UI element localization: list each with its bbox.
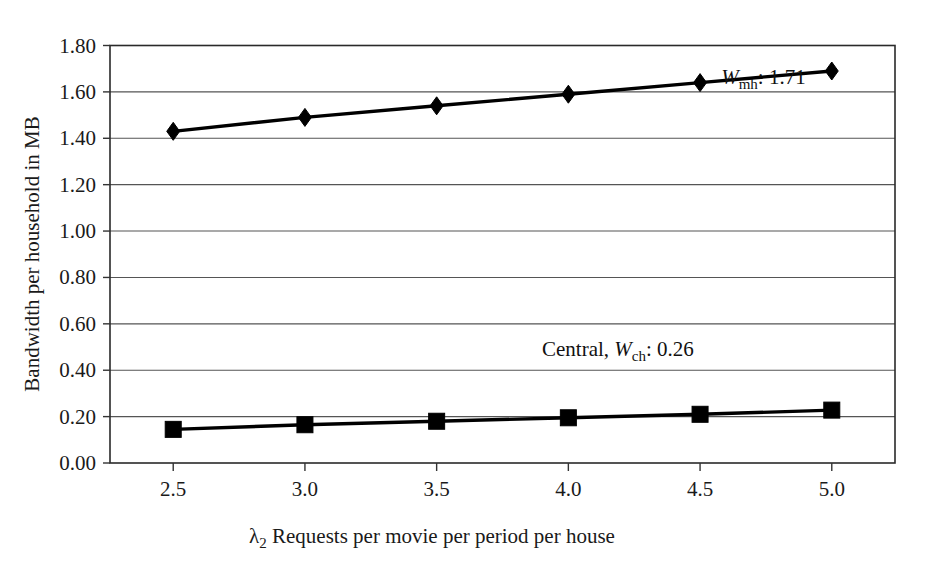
y-tick-label-0.80: 0.80: [59, 265, 96, 289]
y-axis-title: Bandwidth per household in MB: [20, 116, 44, 391]
x-tick-label-3.5: 3.5: [424, 477, 450, 501]
annotation-wmh-label: Wmh: 1.71: [721, 65, 806, 92]
y-tick-label-0.60: 0.60: [59, 312, 96, 336]
y-tick-label-0.20: 0.20: [59, 405, 96, 429]
x-tick-label-2.5: 2.5: [160, 477, 186, 501]
y-tick-label-1.00: 1.00: [59, 219, 96, 243]
data-point-1-1: [297, 417, 313, 433]
y-tick-label-1.80: 1.80: [59, 34, 96, 58]
figure-container: 0.000.200.400.600.801.001.201.401.601.80…: [0, 0, 936, 572]
x-tick-label-4.5: 4.5: [687, 477, 713, 501]
x-tick-label-4.0: 4.0: [555, 477, 581, 501]
y-tick-label-1.60: 1.60: [59, 80, 96, 104]
x-axis-title: λ2 Requests per movie per period per hou…: [249, 524, 615, 551]
data-point-1-3: [560, 410, 576, 426]
data-point-1-4: [692, 406, 708, 422]
data-point-1-2: [429, 413, 445, 429]
data-point-1-0: [165, 421, 181, 437]
bandwidth-line-chart: 0.000.200.400.600.801.001.201.401.601.80…: [0, 0, 936, 572]
y-tick-label-0.00: 0.00: [59, 451, 96, 475]
y-tick-label-0.40: 0.40: [59, 358, 96, 382]
y-tick-label-1.40: 1.40: [59, 126, 96, 150]
data-point-1-5: [824, 402, 840, 418]
y-tick-label-1.20: 1.20: [59, 173, 96, 197]
x-tick-label-3.0: 3.0: [292, 477, 318, 501]
annotation-wch-label: Central, Wch: 0.26: [542, 337, 694, 364]
x-tick-label-5.0: 5.0: [819, 477, 845, 501]
